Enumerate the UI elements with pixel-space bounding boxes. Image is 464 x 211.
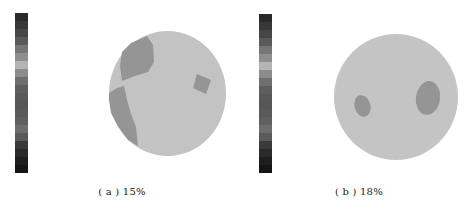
reconstruction-image-a <box>106 28 230 160</box>
reconstruction-image-b <box>332 32 462 162</box>
colorbar-segment <box>15 85 28 93</box>
colorbar-segment <box>259 157 272 165</box>
colorbar-segment <box>15 125 28 133</box>
colorbar-segment <box>259 46 272 54</box>
colorbar-segment <box>259 149 272 157</box>
colorbar-segment <box>15 45 28 53</box>
colorbar-segment <box>15 93 28 101</box>
colorbar-segment <box>15 61 28 69</box>
colorbar-segment <box>15 117 28 125</box>
colorbar-segment <box>15 109 28 117</box>
caption-b: ( b ) 18% <box>335 186 383 197</box>
colorbar-segment <box>15 77 28 85</box>
colorbar-segment <box>259 30 272 38</box>
colorbar-segment <box>15 13 28 21</box>
colorbar-segment <box>15 157 28 165</box>
colorbar-segment <box>15 165 28 173</box>
colorbar-segment <box>259 54 272 62</box>
colorbar-segment <box>15 37 28 45</box>
colorbar-segment <box>259 22 272 30</box>
colorbar-segment <box>15 69 28 77</box>
colorbar-segment <box>259 78 272 86</box>
colorbar-segment <box>15 149 28 157</box>
colorbar-segment <box>15 101 28 109</box>
colorbar-a <box>15 13 28 173</box>
colorbar-segment <box>15 21 28 29</box>
colorbar-segment <box>259 14 272 22</box>
colorbar-segment <box>259 133 272 141</box>
colorbar-segment <box>15 53 28 61</box>
colorbar-segment <box>15 29 28 37</box>
colorbar-b <box>259 14 272 173</box>
colorbar-segment <box>259 38 272 46</box>
colorbar-segment <box>259 109 272 117</box>
panel-a: ( a ) 15% <box>0 0 232 211</box>
colorbar-segment <box>259 165 272 173</box>
colorbar-segment <box>259 70 272 78</box>
colorbar-segment <box>259 125 272 133</box>
colorbar-segment <box>259 62 272 70</box>
colorbar-segment <box>259 86 272 94</box>
colorbar-segment <box>259 141 272 149</box>
panel-b: ( b ) 18% <box>232 0 464 211</box>
colorbar-segment <box>259 94 272 102</box>
caption-a: ( a ) 15% <box>98 186 145 197</box>
colorbar-segment <box>259 101 272 109</box>
colorbar-segment <box>15 141 28 149</box>
colorbar-segment <box>259 117 272 125</box>
colorbar-segment <box>15 133 28 141</box>
